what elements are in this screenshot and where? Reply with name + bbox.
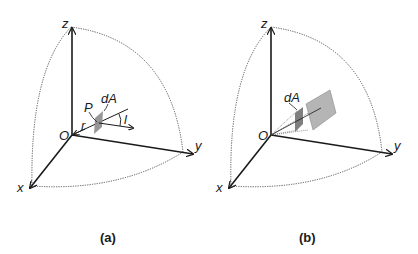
label-z: z [61, 16, 69, 31]
y-axis [271, 135, 392, 154]
label-origin: O [59, 128, 69, 143]
sphere-arc-zx [231, 27, 271, 186]
label-y: y [194, 138, 203, 153]
y-axis [72, 135, 193, 154]
angle-arc [119, 114, 121, 126]
label-origin: O [258, 128, 268, 143]
label-x: x [215, 180, 223, 195]
label-dA: dA [284, 90, 300, 105]
label-r: r [81, 118, 86, 133]
panel-b: z y x O dA (b) [215, 16, 402, 245]
sphere-arc-zy [71, 27, 183, 152]
label-z: z [260, 16, 268, 31]
label-y: y [393, 138, 402, 153]
label-dA: dA [101, 91, 117, 106]
caption-a: (a) [100, 230, 116, 245]
panel-a: z y x O P dA r l (a) [16, 16, 203, 245]
label-l: l [124, 112, 128, 127]
label-P: P [84, 100, 93, 115]
label-x: x [16, 180, 24, 195]
area-patch-dA [94, 111, 103, 134]
direction-arrow [99, 123, 133, 128]
projected-area-patch [306, 90, 336, 130]
figure-canvas: z y x O P dA r l (a) z y x O [0, 0, 418, 254]
caption-b: (b) [299, 230, 316, 245]
